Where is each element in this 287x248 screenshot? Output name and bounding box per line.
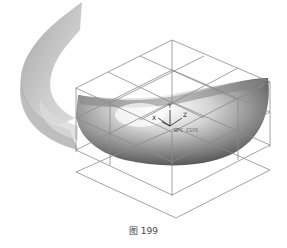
swept-ribbon-surface xyxy=(20,2,82,150)
axis-x-label: X xyxy=(152,114,156,121)
csys-label: WPC CSYS xyxy=(174,127,198,133)
figure-caption: 图 199 xyxy=(0,224,287,237)
surface-illustration: Y X Z WPC CSYS xyxy=(0,0,287,248)
bowl-surface xyxy=(76,78,269,165)
cad-figure: Y X Z WPC CSYS 图 199 xyxy=(0,0,287,248)
axis-y-label: Y xyxy=(167,102,172,109)
axis-z-label: Z xyxy=(183,111,187,118)
